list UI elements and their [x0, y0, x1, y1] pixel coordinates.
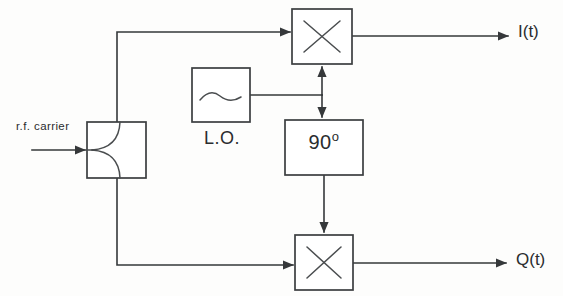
wire-splitter-to-mixer-q	[117, 170, 293, 265]
rf-carrier-label: r.f. carrier	[16, 120, 69, 132]
mixer-quadrature-block[interactable]	[295, 235, 353, 290]
output-quadrature-label: Q(t)	[516, 250, 545, 270]
phase-shifter-label: 90o	[285, 131, 363, 154]
power-splitter-block[interactable]	[86, 122, 146, 178]
local-oscillator-label: L.O.	[192, 128, 252, 149]
output-inphase-label: I(t)	[518, 22, 539, 42]
local-oscillator-block[interactable]	[192, 68, 250, 122]
phase-shifter-value: 90	[309, 131, 332, 153]
diagram-vector-layer	[0, 0, 563, 296]
block-diagram-canvas: r.f. carrier L.O. 90o I(t) Q(t)	[0, 0, 563, 296]
mixer-inphase-block[interactable]	[292, 9, 352, 64]
degree-symbol: o	[332, 129, 340, 144]
